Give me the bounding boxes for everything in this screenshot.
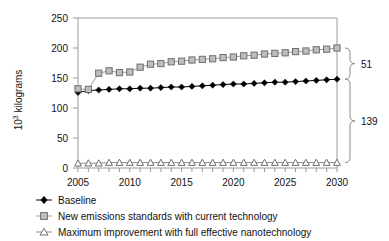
series-1 bbox=[75, 76, 340, 95]
data-point-marker bbox=[96, 70, 102, 76]
y-tick-label-200: 200 bbox=[51, 43, 68, 54]
chart-legend: Baseline New emissions standards with cu… bbox=[36, 195, 311, 238]
y-tick-label-250: 250 bbox=[51, 13, 68, 24]
legend-label-baseline: Baseline bbox=[58, 195, 97, 206]
data-point-marker bbox=[230, 54, 236, 60]
x-tick-label-2025: 2025 bbox=[274, 177, 297, 188]
annotation-braces: 51 139 bbox=[345, 48, 378, 163]
data-point-marker bbox=[334, 45, 340, 51]
data-point-marker bbox=[179, 84, 185, 90]
data-point-marker bbox=[158, 85, 164, 91]
data-point-marker bbox=[199, 56, 205, 62]
x-tick-label-2015: 2015 bbox=[170, 177, 193, 188]
data-point-marker bbox=[292, 49, 298, 55]
data-point-marker bbox=[220, 82, 226, 88]
data-point-marker bbox=[158, 61, 164, 67]
data-point-marker bbox=[313, 47, 319, 53]
annotation-label-51: 51 bbox=[361, 59, 373, 70]
y-tick-label-50: 50 bbox=[57, 133, 69, 144]
data-point-marker bbox=[116, 70, 122, 76]
data-point-marker bbox=[210, 82, 216, 88]
data-point-marker bbox=[179, 58, 185, 64]
brace-139-path bbox=[345, 79, 355, 162]
data-point-marker bbox=[303, 48, 309, 54]
x-tick-label-2030: 2030 bbox=[326, 177, 349, 188]
data-point-marker bbox=[292, 79, 298, 85]
data-point-marker bbox=[282, 50, 288, 56]
data-point-marker bbox=[241, 81, 247, 87]
data-point-marker bbox=[106, 86, 112, 92]
legend-label-new-emissions-standards: New emissions standards with current tec… bbox=[58, 211, 278, 222]
legend-item-baseline: Baseline bbox=[36, 195, 97, 206]
data-point-marker bbox=[147, 85, 153, 91]
chart-figure: 103 kilograms 250 200 150 100 50 0 bbox=[0, 0, 389, 241]
x-axis-ticks bbox=[78, 168, 337, 172]
data-point-marker bbox=[168, 59, 174, 65]
data-point-marker bbox=[116, 86, 122, 92]
y-tick-label-150: 150 bbox=[51, 73, 68, 84]
data-point-marker bbox=[96, 87, 102, 93]
data-point-marker bbox=[241, 53, 247, 59]
data-point-marker bbox=[324, 46, 330, 52]
data-point-marker bbox=[303, 78, 309, 84]
annotation-label-139: 139 bbox=[361, 116, 378, 127]
data-point-marker bbox=[220, 55, 226, 61]
data-point-marker bbox=[189, 57, 195, 63]
data-point-marker bbox=[189, 83, 195, 89]
data-point-marker bbox=[137, 85, 143, 91]
x-tick-label-2010: 2010 bbox=[119, 177, 142, 188]
y-tick-label-100: 100 bbox=[51, 103, 68, 114]
data-point-marker bbox=[261, 51, 267, 57]
legend-label-maximum-improvement: Maximum improvement with full effective … bbox=[58, 227, 311, 238]
data-point-marker bbox=[137, 64, 143, 70]
y-axis-ticks: 250 200 150 100 50 0 bbox=[51, 13, 78, 174]
data-point-marker bbox=[272, 50, 278, 56]
data-point-marker bbox=[334, 76, 340, 82]
data-point-marker bbox=[324, 77, 330, 83]
x-tick-label-2005: 2005 bbox=[67, 177, 90, 188]
data-point-marker bbox=[85, 86, 91, 92]
series-layer bbox=[75, 45, 341, 166]
x-axis-labels: 2005 2010 2015 2020 2025 2030 bbox=[67, 177, 349, 188]
plot-frame bbox=[78, 18, 337, 168]
svg-text:103 kilograms: 103 kilograms bbox=[12, 70, 24, 131]
data-point-marker bbox=[147, 61, 153, 67]
data-point-marker bbox=[127, 69, 133, 75]
brace-51-path bbox=[345, 48, 355, 79]
data-point-marker bbox=[313, 77, 319, 83]
legend-item-new-emissions-standards: New emissions standards with current tec… bbox=[36, 211, 278, 222]
data-point-marker bbox=[261, 80, 267, 86]
y-axis-title-base: 10 bbox=[13, 119, 24, 131]
data-point-marker bbox=[168, 84, 174, 90]
data-point-marker bbox=[210, 56, 216, 62]
data-point-marker bbox=[199, 83, 205, 89]
data-point-marker bbox=[251, 52, 257, 58]
data-point-marker bbox=[282, 79, 288, 85]
data-point-marker bbox=[230, 81, 236, 87]
data-point-marker bbox=[127, 86, 133, 92]
data-point-marker bbox=[251, 80, 257, 86]
x-tick-label-2020: 2020 bbox=[222, 177, 245, 188]
data-point-marker bbox=[272, 79, 278, 85]
data-point-marker bbox=[106, 68, 112, 74]
series-3 bbox=[75, 159, 341, 166]
legend-item-maximum-improvement: Maximum improvement with full effective … bbox=[36, 227, 311, 238]
y-tick-label-0: 0 bbox=[62, 163, 68, 174]
data-point-marker bbox=[75, 86, 81, 92]
y-axis-title: 103 kilograms bbox=[12, 70, 24, 131]
y-axis-title-rest: kilograms bbox=[13, 70, 24, 116]
